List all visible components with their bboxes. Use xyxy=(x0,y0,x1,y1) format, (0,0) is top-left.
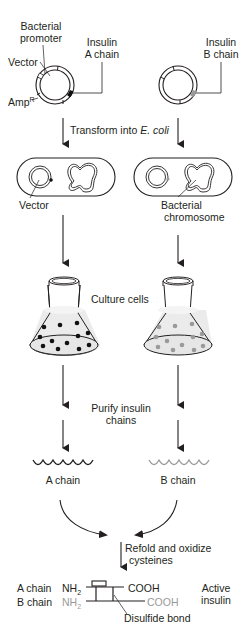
label-line: B chain xyxy=(200,48,242,60)
b-chain-wave xyxy=(149,460,209,465)
b-chain-cooh: COOH xyxy=(147,596,179,608)
a-chain-wave xyxy=(33,460,93,465)
culture-flask-right xyxy=(144,277,212,355)
label-line: Bacterial xyxy=(14,20,68,32)
label-active-insulin: Active insulin xyxy=(196,582,236,606)
label-vector-cell: Vector xyxy=(19,199,49,211)
amp-sup: R xyxy=(30,96,35,103)
step-purify: Purify insulin chains xyxy=(86,402,156,426)
step-transform: Transform into E. coli xyxy=(70,124,169,136)
ecoli-cell-left xyxy=(17,158,115,198)
label-line: Bacterial xyxy=(161,199,225,211)
step-refold: Refold and oxidize cysteines xyxy=(125,542,211,566)
label-line: insulin xyxy=(196,594,236,606)
label-bacterial-chromosome: Bacterial chromosome xyxy=(161,199,225,223)
label-disulfide-bond: Disulfide bond xyxy=(124,612,191,624)
ecoli-cell-right xyxy=(134,158,232,197)
transform-text: Transform into xyxy=(70,124,140,136)
arrow-curve-a xyxy=(60,500,106,535)
product-b-chain-label: B chain xyxy=(17,596,52,608)
step-culture: Culture cells xyxy=(91,293,149,305)
label-line: Insulin xyxy=(82,36,122,48)
label-line: chromosome xyxy=(161,211,225,223)
b-chain-nh2: NH2 xyxy=(62,596,81,608)
product-a-chain-label: A chain xyxy=(17,582,51,594)
label-a-chain: A chain xyxy=(38,474,88,486)
label-line: Purify insulin xyxy=(86,402,156,414)
organism-name: E. coli xyxy=(140,124,169,136)
label-bacterial-promoter: Bacterial promoter xyxy=(14,20,68,44)
label-line: Active xyxy=(196,582,236,594)
plasmid-b-chain xyxy=(159,62,221,104)
label-ampr: AmpR xyxy=(8,96,35,108)
arrow-curve-b xyxy=(136,500,177,535)
amp-text: Amp xyxy=(8,96,30,108)
a-chain-cooh: COOH xyxy=(128,582,160,594)
label-insulin-b: Insulin B chain xyxy=(200,36,242,60)
label-line: Refold and oxidize xyxy=(125,542,211,554)
subscript: 2 xyxy=(77,603,81,610)
culture-flask-left xyxy=(30,277,100,355)
label-line: Insulin xyxy=(200,36,242,48)
label-b-chain: B chain xyxy=(153,474,203,486)
label-line: promoter xyxy=(14,32,68,44)
label-line: A chain xyxy=(82,48,122,60)
label-line: cysteines xyxy=(125,554,211,566)
label-line: chains xyxy=(86,414,156,426)
label-vector-plasmid: Vector xyxy=(8,56,38,68)
a-chain-nh2: NH2 xyxy=(62,582,81,594)
nh-text: NH xyxy=(62,596,77,608)
nh-text: NH xyxy=(62,582,77,594)
label-insulin-a: Insulin A chain xyxy=(82,36,122,60)
